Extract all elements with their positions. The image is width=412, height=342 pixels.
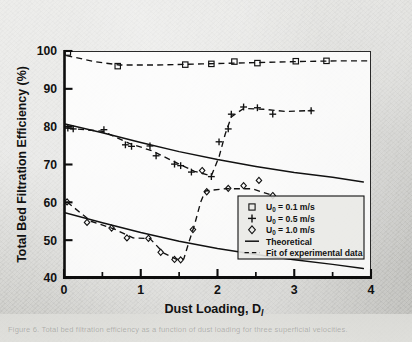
legend: U0 = 0.1 m/sU0 = 0.5 m/sU0 = 1.0 m/sTheo…: [238, 196, 364, 259]
y-tick-label: 40: [43, 271, 57, 285]
y-axis-tick-labels: 405060708090100: [37, 44, 58, 285]
figure-caption-ghost: Figure 6. Total bed filtration efficienc…: [8, 325, 406, 337]
legend-label: Fit of experimental data: [266, 248, 363, 258]
x-tick-label: 1: [137, 283, 144, 297]
x-axis-tick-labels: 01234: [61, 283, 375, 297]
y-tick-label: 90: [43, 82, 57, 96]
x-axis-title: Dust Loading, Dl: [165, 302, 265, 318]
y-tick-label: 80: [43, 120, 57, 134]
x-tick-label: 0: [61, 283, 68, 297]
x-tick-label: 3: [291, 283, 298, 297]
x-tick-label: 2: [214, 283, 221, 297]
y-axis-title: Total Bed Filtration Efficiency (%): [15, 66, 29, 263]
y-axis-title-text: Total Bed Filtration Efficiency (%): [15, 66, 29, 263]
y-tick-label: 70: [43, 158, 57, 172]
x-tick-label: 4: [368, 283, 375, 297]
y-tick-label: 100: [37, 44, 58, 58]
figure-chart: 405060708090100 01234 Total Bed Filtrati…: [0, 0, 412, 342]
y-tick-label: 50: [43, 234, 57, 248]
legend-label: Theoretical: [266, 237, 312, 247]
x-axis-title-text: Dust Loading, Dl: [165, 302, 265, 318]
y-tick-label: 60: [43, 196, 57, 210]
